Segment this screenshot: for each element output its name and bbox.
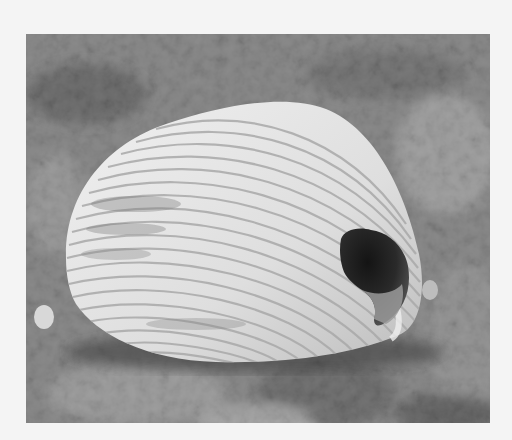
shell-on-sand-illustration (26, 34, 490, 423)
photograph: Grayscale photograph of a ribbed cockle … (26, 34, 490, 423)
